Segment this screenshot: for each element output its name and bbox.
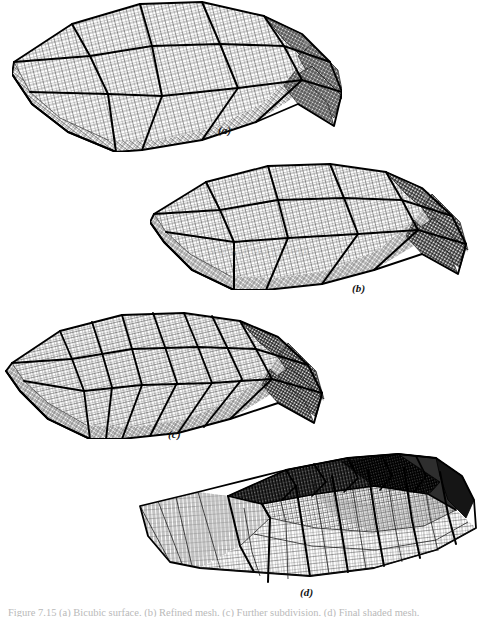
surface-panel-b [150, 158, 480, 290]
figure-caption: Figure 7.15 (a) Bicubic surface. (b) Ref… [8, 607, 472, 617]
panel-label-c: (c) [168, 428, 181, 440]
surface-panel-d [136, 452, 480, 586]
surface-panel-a [12, 0, 342, 152]
surface-panel-c [2, 305, 332, 439]
panel-label-b: (b) [352, 282, 365, 294]
panel-label-a: (a) [218, 124, 231, 136]
figure-page: (a) [0, 0, 480, 617]
panel-label-d: (d) [300, 586, 313, 598]
